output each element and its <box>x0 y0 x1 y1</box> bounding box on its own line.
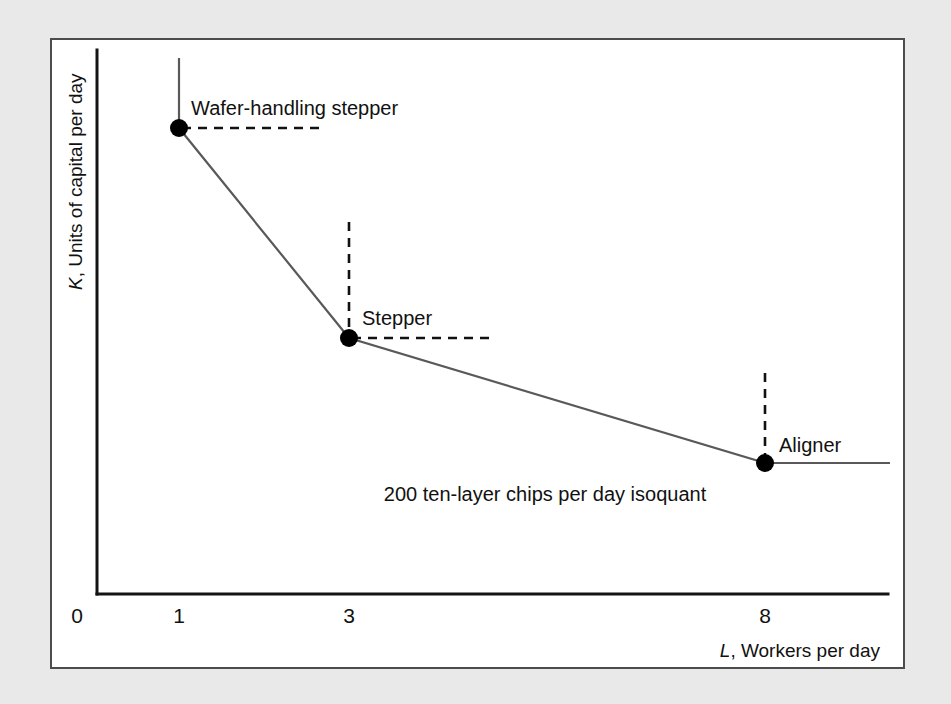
y-axis-title: K, Units of capital per day <box>65 73 86 290</box>
label-aligner: Aligner <box>779 434 842 456</box>
x-tick-label-3: 3 <box>343 604 355 627</box>
label-wafer-handling-stepper: Wafer-handling stepper <box>191 97 398 119</box>
data-point-wafer-handling-stepper <box>170 119 188 137</box>
x-axis-variable: L <box>720 640 731 661</box>
x-axis-title: L, Workers per day <box>720 640 881 661</box>
label-stepper: Stepper <box>362 307 432 329</box>
isoquant-caption: 200 ten-layer chips per day isoquant <box>384 483 707 505</box>
data-point-stepper <box>340 329 358 347</box>
data-point-aligner <box>756 454 774 472</box>
x-tick-label-8: 8 <box>759 604 771 627</box>
x-tick-label-1: 1 <box>173 604 185 627</box>
x-axis-title-rest: , Workers per day <box>730 640 880 661</box>
x-tick-label-0: 0 <box>71 604 83 627</box>
isoquant-chart: Wafer-handling stepper Stepper Aligner 2… <box>0 0 951 704</box>
y-axis-title-rest: , Units of capital per day <box>65 73 86 277</box>
